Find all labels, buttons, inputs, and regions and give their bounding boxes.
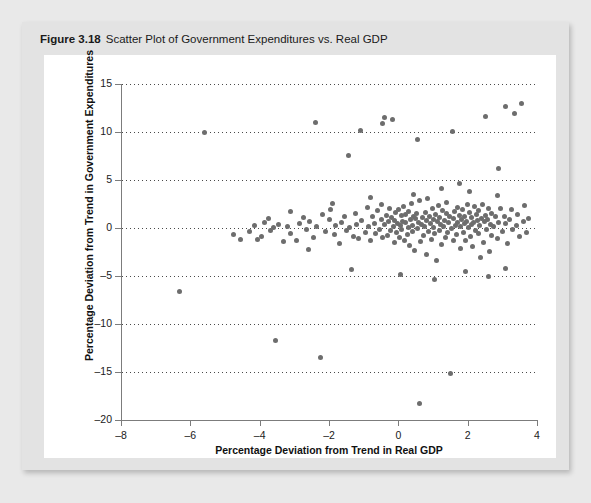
scatter-point [514, 223, 519, 228]
scatter-point [476, 231, 481, 236]
scatter-point [507, 217, 512, 222]
scatter-point [411, 192, 416, 197]
scatter-point [306, 247, 311, 252]
scatter-point [524, 230, 529, 235]
scatter-point [424, 252, 429, 257]
scatter-point [328, 207, 333, 212]
scatter-point [406, 209, 411, 214]
scatter-point [517, 234, 522, 239]
scatter-point [398, 272, 403, 277]
scatter-point [294, 238, 299, 243]
scatter-point [439, 242, 444, 247]
scatter-point [430, 206, 435, 211]
scatter-point [436, 203, 441, 208]
scatter-points [44, 55, 556, 458]
scatter-point [323, 229, 328, 234]
scatter-point [429, 237, 434, 242]
scatter-point [519, 101, 524, 106]
scatter-point [382, 115, 387, 120]
page-background: Figure 3.18Scatter Plot of Government Ex… [0, 0, 591, 503]
scatter-point [337, 241, 342, 246]
scatter-point [460, 207, 465, 212]
scatter-point [503, 266, 508, 271]
scatter-point [377, 227, 382, 232]
scatter-point [380, 121, 385, 126]
scatter-point [496, 166, 501, 171]
scatter-point [412, 248, 417, 253]
scatter-point [477, 223, 482, 228]
scatter-point [437, 228, 442, 233]
scatter-point [448, 371, 453, 376]
scatter-point [414, 211, 419, 216]
scatter-point [512, 111, 517, 116]
scatter-point [356, 236, 361, 241]
scatter-point [509, 207, 514, 212]
scatter-point [281, 239, 286, 244]
scatter-point [392, 240, 397, 245]
scatter-point [461, 230, 466, 235]
scatter-point [441, 224, 446, 229]
scatter-point [399, 227, 404, 232]
scatter-point [365, 205, 370, 210]
scatter-point [307, 219, 312, 224]
scatter-point [417, 198, 422, 203]
scatter-point [495, 193, 500, 198]
scatter-point [375, 208, 380, 213]
scatter-point [407, 243, 412, 248]
scatter-point [434, 258, 439, 263]
scatter-point [384, 213, 389, 218]
scatter-point [288, 209, 293, 214]
scatter-point [421, 233, 426, 238]
scatter-point [368, 238, 373, 243]
scatter-point [451, 238, 456, 243]
scatter-point [526, 216, 531, 221]
scatter-point [396, 207, 401, 212]
scatter-point [470, 244, 475, 249]
scatter-point [285, 224, 290, 229]
scatter-point [252, 223, 257, 228]
scatter-point [358, 128, 363, 133]
scatter-point [231, 232, 236, 237]
scatter-point [417, 401, 422, 406]
figure-caption-text: Scatter Plot of Government Expenditures … [101, 33, 388, 45]
scatter-point [297, 221, 302, 226]
scatter-point [333, 223, 338, 228]
scatter-point [454, 232, 459, 237]
scatter-point [397, 235, 402, 240]
scatter-point [484, 227, 489, 232]
scatter-point [415, 137, 420, 142]
scatter-point [318, 355, 323, 360]
scatter-point [521, 219, 526, 224]
scatter-point [390, 117, 395, 122]
scatter-point [346, 153, 351, 158]
scatter-point [327, 217, 332, 222]
scatter-point [238, 237, 243, 242]
scatter-point [503, 104, 508, 109]
scatter-point [368, 195, 373, 200]
scatter-point [443, 235, 448, 240]
scatter-point [510, 227, 515, 232]
scatter-point [467, 210, 472, 215]
scatter-point [349, 267, 354, 272]
scatter-point [496, 220, 501, 225]
figure-card: Figure 3.18Scatter Plot of Government Ex… [22, 22, 569, 470]
scatter-point [370, 214, 375, 219]
scatter-point [247, 229, 252, 234]
scatter-point [177, 289, 182, 294]
scatter-point [363, 230, 368, 235]
scatter-point [439, 186, 444, 191]
figure-number: Figure 3.18 [40, 33, 101, 45]
scatter-point [276, 222, 281, 227]
scatter-point [483, 114, 488, 119]
scatter-point [405, 232, 410, 237]
scatter-point [426, 229, 431, 234]
scatter-point [422, 224, 427, 229]
scatter-point [385, 233, 390, 238]
figure-caption: Figure 3.18Scatter Plot of Government Ex… [40, 33, 388, 45]
scatter-point [458, 246, 463, 251]
x-axis-title: Percentage Deviation from Trend in Real … [121, 444, 537, 456]
scatter-point [353, 211, 358, 216]
scatter-point [450, 129, 455, 134]
scatter-point [410, 229, 415, 234]
scatter-point [347, 225, 352, 230]
